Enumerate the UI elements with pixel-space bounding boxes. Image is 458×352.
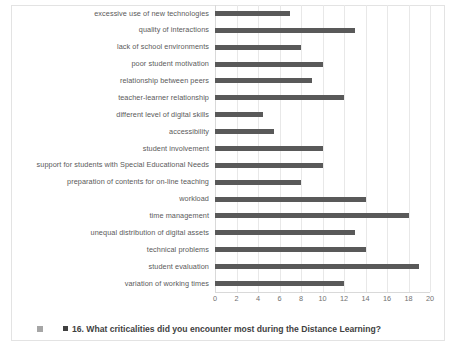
x-tick-label: 20 (426, 294, 434, 303)
bar (215, 247, 366, 252)
category-axis-labels: excessive use of new technologiesquality… (11, 5, 215, 292)
gridline (430, 5, 431, 292)
bar (215, 129, 274, 134)
x-axis-tick-labels: 02468101214161820 (215, 294, 430, 308)
legend-swatch-outer-icon (37, 326, 43, 332)
bar (215, 78, 312, 83)
category-label: student involvement (11, 140, 215, 157)
chart-legend: 16. What criticalities did you encounter… (11, 316, 445, 341)
category-label: support for students with Special Educat… (11, 157, 215, 174)
bar-row (215, 5, 430, 22)
bar-series (215, 5, 430, 292)
bar-row (215, 224, 430, 241)
bar (215, 146, 323, 151)
x-tick-label: 18 (404, 294, 412, 303)
x-tick-label: 16 (383, 294, 391, 303)
bar-row (215, 241, 430, 258)
bar-row (215, 140, 430, 157)
bar-row (215, 89, 430, 106)
bar (215, 45, 301, 50)
bar (215, 213, 409, 218)
category-label: workload (11, 191, 215, 208)
x-tick-label: 8 (299, 294, 303, 303)
bar (215, 11, 290, 16)
category-label: lack of school environments (11, 39, 215, 56)
bar (215, 28, 355, 33)
category-label: teacher-learner relationship (11, 89, 215, 106)
category-label: poor student motivation (11, 56, 215, 73)
bar (215, 230, 355, 235)
bar (215, 62, 323, 67)
category-label: relationship between peers (11, 73, 215, 90)
bar-row (215, 73, 430, 90)
category-label: variation of working times (11, 275, 215, 292)
category-label: excessive use of new technologies (11, 5, 215, 22)
bar-chart: excessive use of new technologiesquality… (0, 0, 458, 352)
bar-row (215, 157, 430, 174)
category-label: technical problems (11, 241, 215, 258)
bar (215, 95, 344, 100)
plot-area (215, 5, 430, 292)
bar-row (215, 106, 430, 123)
x-tick-label: 0 (213, 294, 217, 303)
category-label: time management (11, 208, 215, 225)
category-label: unequal distribution of digital assets (11, 224, 215, 241)
bar (215, 112, 263, 117)
x-tick-label: 12 (340, 294, 348, 303)
plot-wrapper: excessive use of new technologiesquality… (11, 5, 445, 308)
bar (215, 264, 419, 269)
bar (215, 163, 323, 168)
legend-label: 16. What criticalities did you encounter… (72, 324, 381, 334)
bar-row (215, 191, 430, 208)
x-tick-label: 4 (256, 294, 260, 303)
x-tick-label: 2 (234, 294, 238, 303)
bar (215, 197, 366, 202)
x-axis-line (215, 292, 430, 293)
bar-row (215, 174, 430, 191)
x-tick-label: 10 (318, 294, 326, 303)
category-label: different level of digital skills (11, 106, 215, 123)
category-label: student evaluation (11, 258, 215, 275)
category-label: accessibility (11, 123, 215, 140)
bar-row (215, 22, 430, 39)
bar-row (215, 258, 430, 275)
legend-swatch-inner-icon (63, 326, 68, 331)
bar (215, 281, 344, 286)
bar-row (215, 123, 430, 140)
bar (215, 180, 301, 185)
bar-row (215, 208, 430, 225)
category-label: quality of interactions (11, 22, 215, 39)
bar-row (215, 56, 430, 73)
bar-row (215, 275, 430, 292)
x-tick-label: 6 (277, 294, 281, 303)
bar-row (215, 39, 430, 56)
category-label: preparation of contents for on-line teac… (11, 174, 215, 191)
x-tick-label: 14 (361, 294, 369, 303)
